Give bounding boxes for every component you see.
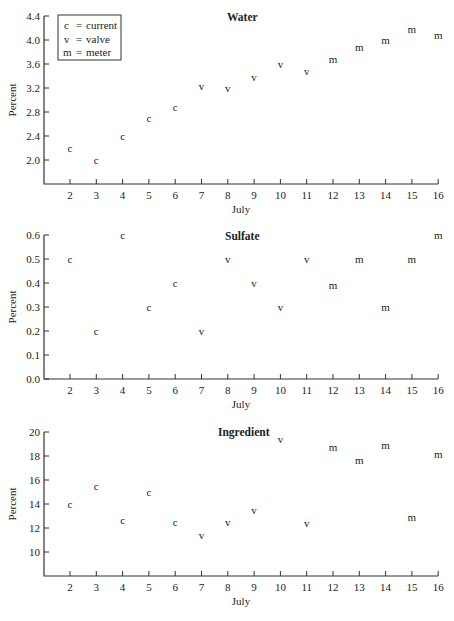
data-point-m: m xyxy=(355,454,364,466)
x-tick-label: 3 xyxy=(94,384,100,396)
data-point-m: m xyxy=(329,53,338,65)
data-point-c: c xyxy=(68,142,73,154)
x-axis-title: July xyxy=(232,398,251,410)
x-tick-label: 10 xyxy=(275,189,287,201)
data-point-m: m xyxy=(434,29,443,41)
legend-entry-label: meter xyxy=(86,46,111,58)
legend-entry-symbol: v xyxy=(64,33,70,45)
data-point-c: c xyxy=(146,112,151,124)
axis-lines xyxy=(44,235,438,379)
data-point-v: v xyxy=(199,80,205,92)
x-tick-label: 6 xyxy=(172,581,178,593)
x-axis-title: July xyxy=(232,595,251,607)
data-point-c: c xyxy=(68,498,73,510)
data-point-v: v xyxy=(304,517,310,529)
y-tick-label: 3.2 xyxy=(26,82,40,94)
data-point-c: c xyxy=(68,253,73,265)
x-tick-label: 2 xyxy=(67,384,73,396)
y-axis-title: Percent xyxy=(6,84,18,117)
x-tick-label: 9 xyxy=(251,189,257,201)
data-point-c: c xyxy=(120,130,125,142)
axis-lines xyxy=(44,432,438,576)
x-tick-label: 16 xyxy=(433,384,445,396)
x-tick-label: 8 xyxy=(225,384,231,396)
data-point-m: m xyxy=(434,229,443,241)
y-tick-label: 3.6 xyxy=(26,58,40,70)
y-tick-label: 0.5 xyxy=(26,253,40,265)
data-points: cccccvvvvvmmmmm xyxy=(68,23,443,165)
data-point-v: v xyxy=(225,253,231,265)
data-point-m: m xyxy=(381,439,390,451)
x-tick-label: 9 xyxy=(251,384,257,396)
axis-ticks: 0.00.10.20.30.40.50.62345678910111213141… xyxy=(26,229,444,396)
legend-entry-symbol: m xyxy=(63,46,72,58)
x-tick-label: 7 xyxy=(199,384,205,396)
panel-title: Water xyxy=(227,11,258,23)
data-point-c: c xyxy=(146,301,151,313)
x-tick-label: 12 xyxy=(328,581,339,593)
data-point-v: v xyxy=(304,253,310,265)
x-tick-label: 12 xyxy=(328,384,339,396)
data-point-v: v xyxy=(278,301,284,313)
data-point-v: v xyxy=(251,504,257,516)
data-point-c: c xyxy=(173,277,178,289)
x-tick-label: 6 xyxy=(172,384,178,396)
x-tick-label: 3 xyxy=(94,581,100,593)
data-points: cccccvvvvvmmmmm xyxy=(68,229,443,337)
y-axis-title: Percent xyxy=(6,488,18,521)
x-tick-label: 16 xyxy=(433,189,445,201)
data-point-v: v xyxy=(251,277,257,289)
x-tick-label: 10 xyxy=(275,384,287,396)
data-point-m: m xyxy=(381,34,390,46)
data-point-v: v xyxy=(225,82,231,94)
x-tick-label: 13 xyxy=(354,384,366,396)
chart-panel-water: Water Percent July 2.02.42.83.23.64.04.4… xyxy=(6,10,444,215)
y-tick-label: 0.3 xyxy=(26,301,40,313)
data-point-c: c xyxy=(146,486,151,498)
data-point-v: v xyxy=(251,71,257,83)
x-tick-label: 15 xyxy=(406,189,418,201)
y-tick-label: 2.8 xyxy=(26,106,40,118)
x-tick-label: 8 xyxy=(225,581,231,593)
y-axis-title: Percent xyxy=(6,291,18,324)
y-tick-label: 0.0 xyxy=(26,373,40,385)
data-point-v: v xyxy=(199,529,205,541)
x-tick-label: 14 xyxy=(380,189,392,201)
legend-entry-label: current xyxy=(86,19,117,31)
data-point-c: c xyxy=(173,101,178,113)
x-tick-label: 9 xyxy=(251,581,257,593)
x-tick-label: 15 xyxy=(406,384,418,396)
y-tick-label: 2.4 xyxy=(26,130,40,142)
x-tick-label: 10 xyxy=(275,581,287,593)
y-tick-label: 2.0 xyxy=(26,154,40,166)
data-point-m: m xyxy=(408,511,417,523)
data-point-c: c xyxy=(94,325,99,337)
y-tick-label: 0.6 xyxy=(26,229,40,241)
y-tick-label: 14 xyxy=(29,498,41,510)
y-tick-label: 0.2 xyxy=(26,325,40,337)
x-tick-label: 11 xyxy=(301,384,312,396)
x-tick-label: 2 xyxy=(67,189,73,201)
x-tick-label: 7 xyxy=(199,581,205,593)
data-point-c: c xyxy=(94,480,99,492)
x-tick-label: 14 xyxy=(380,384,392,396)
data-point-m: m xyxy=(408,23,417,35)
x-tick-label: 4 xyxy=(120,384,126,396)
x-tick-label: 15 xyxy=(406,581,418,593)
x-tick-label: 5 xyxy=(146,189,152,201)
x-tick-label: 6 xyxy=(172,189,178,201)
data-point-v: v xyxy=(199,325,205,337)
x-tick-label: 7 xyxy=(199,189,205,201)
chart-panel-ingredient: Ingredient Percent July 1012141618202345… xyxy=(6,426,444,607)
data-point-v: v xyxy=(304,65,310,77)
data-point-m: m xyxy=(355,41,364,53)
x-tick-label: 3 xyxy=(94,189,100,201)
y-tick-label: 4.4 xyxy=(26,10,40,22)
x-tick-label: 4 xyxy=(120,189,126,201)
legend-entry-eq: = xyxy=(76,33,82,45)
x-tick-label: 11 xyxy=(301,581,312,593)
axis-ticks: 1012141618202345678910111213141516 xyxy=(29,426,444,593)
x-axis-title: July xyxy=(232,203,251,215)
x-tick-label: 4 xyxy=(120,581,126,593)
data-point-m: m xyxy=(434,448,443,460)
